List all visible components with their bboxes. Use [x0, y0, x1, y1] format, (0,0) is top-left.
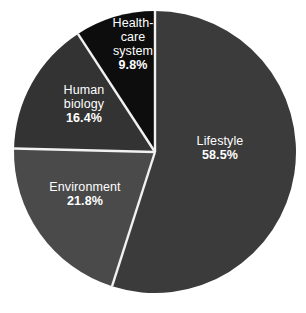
pie-chart-svg [0, 0, 306, 313]
pie-chart-figure: Health- care system 9.8% Lifestyle 58.5%… [0, 0, 306, 313]
